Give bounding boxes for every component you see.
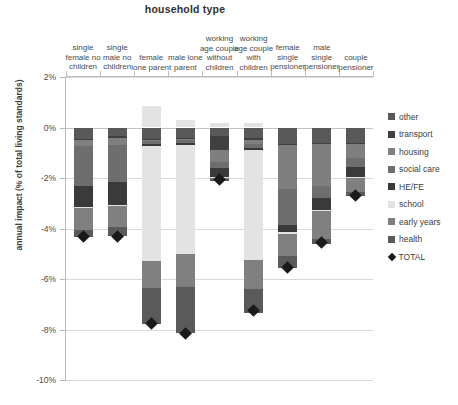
- legend-swatch-icon: [388, 131, 395, 138]
- legend-label: housing: [399, 147, 429, 157]
- legend-item[interactable]: transport: [388, 126, 458, 144]
- legend-label: other: [399, 112, 418, 122]
- bar-stack[interactable]: [346, 77, 365, 380]
- bar-segment-early-years: [176, 254, 195, 287]
- bar-segment-social-care: [74, 146, 93, 185]
- y-tick-label: -6%: [16, 274, 56, 284]
- legend-item[interactable]: TOTAL: [388, 248, 458, 266]
- legend-label: HE/FE: [399, 182, 424, 192]
- bar-segment-early-years: [74, 208, 93, 229]
- chart-legend: othertransporthousingsocial careHE/FEsch…: [388, 108, 458, 266]
- bar-segment-housing: [346, 144, 365, 158]
- legend-item[interactable]: other: [388, 108, 458, 126]
- bar-segment-he-fe: [278, 225, 297, 233]
- category-label: couple pensioner: [336, 53, 376, 72]
- legend-item[interactable]: social care: [388, 161, 458, 179]
- bar-segment-early-years: [312, 211, 331, 239]
- y-tick-label: 0%: [16, 123, 56, 133]
- y-tick-label: -8%: [16, 325, 56, 335]
- bar-segment-other: [74, 128, 93, 139]
- bar-segment-school: [176, 145, 195, 254]
- bar-segment-housing: [278, 145, 297, 189]
- bar-segment-he-fe: [74, 186, 93, 207]
- legend-label: early years: [399, 217, 441, 227]
- bar-segment-social-care: [108, 145, 127, 182]
- bar-segment-housing: [312, 144, 331, 186]
- bar-segment-early-years: [142, 261, 161, 288]
- legend-label: social care: [399, 164, 440, 174]
- bar-segment-social-care: [346, 158, 365, 167]
- legend-label: school: [399, 199, 424, 209]
- bar-segment-school: [244, 150, 263, 260]
- legend-item[interactable]: HE/FE: [388, 178, 458, 196]
- bar-stack[interactable]: [142, 77, 161, 380]
- bar-segment-school: [176, 120, 195, 128]
- bar-segment-social-care: [278, 189, 297, 224]
- gridline-neg10: [66, 380, 373, 381]
- bar-segment-early-years: [244, 260, 263, 289]
- legend-item[interactable]: housing: [388, 143, 458, 161]
- bar-segment-other: [244, 128, 263, 138]
- bar-stack[interactable]: [108, 77, 127, 380]
- chart-container: household type annual impact (% of total…: [0, 0, 458, 405]
- bar-segment-housing: [108, 138, 127, 145]
- bar-segment-he-fe: [312, 198, 331, 209]
- legend-label: TOTAL: [399, 252, 426, 262]
- y-axis-label: annual impact (% of total living standar…: [14, 50, 24, 280]
- bar-segment-other: [142, 128, 161, 139]
- bar-segment-other: [176, 128, 195, 138]
- legend-swatch-icon: [388, 166, 395, 173]
- bar-segment-early-years: [108, 206, 127, 227]
- y-tick-label: -10%: [16, 375, 56, 385]
- bar-segment-other: [312, 128, 331, 143]
- legend-swatch-icon: [388, 201, 395, 208]
- y-tick-label: -2%: [16, 173, 56, 183]
- legend-label: health: [399, 234, 422, 244]
- bar-segment-other: [346, 128, 365, 143]
- bar-segment-social-care: [312, 186, 331, 199]
- bar-segment-early-years: [278, 234, 297, 257]
- bar-stack[interactable]: [278, 77, 297, 380]
- bar-stack[interactable]: [312, 77, 331, 380]
- plot-area: [66, 77, 373, 380]
- legend-diamond-icon: [387, 253, 395, 261]
- bar-stack[interactable]: [210, 77, 229, 380]
- bar-segment-housing: [210, 150, 229, 161]
- legend-swatch-icon: [388, 218, 395, 225]
- bar-segment-other: [108, 128, 127, 137]
- bar-segment-he-fe: [346, 167, 365, 177]
- bar-segment-other: [278, 128, 297, 144]
- legend-swatch-icon: [388, 148, 395, 155]
- legend-item[interactable]: health: [388, 231, 458, 249]
- legend-item[interactable]: early years: [388, 213, 458, 231]
- bar-stack[interactable]: [176, 77, 195, 380]
- legend-swatch-icon: [388, 236, 395, 243]
- y-tick-label: -4%: [16, 224, 56, 234]
- bar-segment-he-fe: [108, 182, 127, 205]
- bar-segment-transport: [210, 136, 229, 150]
- legend-swatch-icon: [388, 113, 395, 120]
- bar-segment-school: [142, 106, 161, 127]
- y-tick-label: 2%: [16, 72, 56, 82]
- bar-segment-other: [210, 128, 229, 137]
- bar-stack[interactable]: [74, 77, 93, 380]
- legend-item[interactable]: school: [388, 196, 458, 214]
- legend-swatch-icon: [388, 183, 395, 190]
- bar-segment-school: [142, 146, 161, 261]
- chart-title: household type: [0, 3, 370, 15]
- legend-label: transport: [399, 129, 433, 139]
- bar-stack[interactable]: [244, 77, 263, 380]
